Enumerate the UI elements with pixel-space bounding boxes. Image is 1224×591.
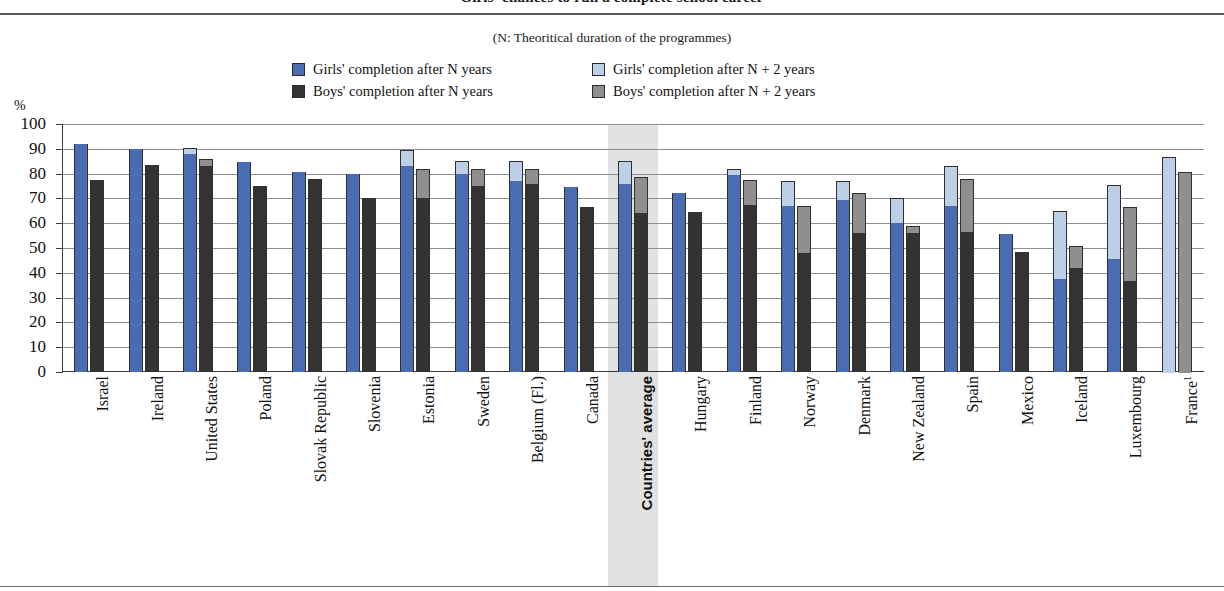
- segment-girls_n2: [401, 151, 413, 167]
- segment-boys_n: [1070, 268, 1082, 372]
- segment-boys_n: [91, 180, 103, 372]
- x-axis-label-canada: Canada: [585, 376, 601, 424]
- bar-group: [62, 124, 116, 372]
- chart-title-strip: Girls' chances to run a complete school …: [0, 0, 1224, 13]
- segment-boys_n2: [526, 170, 538, 185]
- x-axis-label-luxembourg: Luxembourg: [1128, 376, 1144, 458]
- y-tick-label-70: 70: [29, 188, 46, 208]
- bar-group: [280, 124, 334, 372]
- bar-boys-belgium-fl: [525, 169, 539, 372]
- bar-group: [823, 124, 877, 372]
- legend-swatch-girls_n: [292, 63, 305, 76]
- x-axis-label-slovak-republic: Slovak Republic: [313, 376, 329, 482]
- segment-boys_n: [635, 213, 647, 372]
- bar-boys-united-states: [199, 159, 213, 372]
- bar-boys-france: [1178, 172, 1192, 372]
- x-axis-label-israel: Israel: [95, 376, 111, 412]
- legend-item-girls_n: Girls' completion after N years: [292, 61, 592, 78]
- bar-group: [171, 124, 225, 372]
- y-tick-label-10: 10: [29, 337, 46, 357]
- legend-item-boys_n2: Boys' completion after N + 2 years: [592, 83, 912, 100]
- bar-group: [986, 124, 1040, 372]
- y-tick-label-0: 0: [38, 362, 47, 382]
- bar-boys-canada: [580, 207, 594, 372]
- bar-girls-france: [1162, 157, 1176, 372]
- segment-boys_n: [961, 232, 973, 372]
- segment-boys_n: [526, 184, 538, 372]
- footnote-marker: 1: [1182, 376, 1193, 381]
- bar-group: [443, 124, 497, 372]
- bar-girls-mexico: [999, 234, 1013, 372]
- bar-group: [606, 124, 660, 372]
- segment-boys_n2: [472, 170, 484, 187]
- legend-label-girls_n2: Girls' completion after N + 2 years: [613, 61, 815, 78]
- segment-boys_n: [254, 186, 266, 372]
- bar-group: [116, 124, 170, 372]
- segment-boys_n2: [1070, 247, 1082, 269]
- bar-girls-belgium-fl: [509, 161, 523, 372]
- bar-girls-slovenia: [346, 174, 360, 372]
- segment-boys_n: [309, 179, 321, 372]
- segment-girls_n: [1000, 234, 1012, 372]
- x-axis-label-norway: Norway: [802, 376, 818, 428]
- bar-group: [551, 124, 605, 372]
- bar-boys-finland: [743, 180, 757, 372]
- legend-label-boys_n: Boys' completion after N years: [313, 83, 493, 100]
- segment-girls_n: [456, 174, 468, 372]
- bar-group: [878, 124, 932, 372]
- bar-boys-norway: [797, 206, 811, 372]
- segment-boys_n: [146, 165, 158, 372]
- bar-group: [1041, 124, 1095, 372]
- segment-girls_n: [673, 193, 685, 372]
- y-axis-labels: 0102030405060708090100: [0, 124, 56, 372]
- bar-girls-hungary: [672, 193, 686, 372]
- page-title: Girls' chances to run a complete school …: [0, 0, 1224, 6]
- bar-group: [388, 124, 442, 372]
- plot-area: [62, 124, 1204, 372]
- y-tick-label-30: 30: [29, 288, 46, 308]
- y-tick-0: [56, 372, 63, 373]
- bar-girls-united-states: [183, 148, 197, 372]
- segment-girls_n2: [619, 162, 631, 184]
- segment-girls_n: [728, 175, 740, 372]
- x-axis-label-belgium-fl: Belgium (Fl.): [530, 376, 546, 463]
- x-axis-label-finland: Finland: [748, 376, 764, 425]
- bar-group: [769, 124, 823, 372]
- y-axis-unit: %: [14, 98, 26, 114]
- segment-boys_n: [200, 166, 212, 372]
- bar-boys-countries-average: [634, 177, 648, 372]
- bar-girls-denmark: [836, 181, 850, 372]
- bar-boys-iceland: [1069, 246, 1083, 372]
- y-tick-label-100: 100: [21, 114, 47, 134]
- bar-group: [1150, 124, 1204, 372]
- bar-boys-denmark: [852, 193, 866, 372]
- x-axis-labels: IsraelIrelandUnited StatesPolandSlovak R…: [62, 376, 1204, 576]
- y-tick-label-50: 50: [29, 238, 46, 258]
- chart-subtitle: (N: Theoritical duration of the programm…: [0, 30, 1224, 46]
- segment-girls_n: [891, 223, 903, 372]
- segment-boys_n: [1016, 252, 1028, 372]
- segment-boys_n: [581, 207, 593, 372]
- x-axis-label-denmark: Denmark: [857, 376, 873, 436]
- segment-boys_n: [1124, 281, 1136, 372]
- bar-girls-iceland: [1053, 211, 1067, 372]
- segment-girls_n: [238, 162, 250, 372]
- x-axis-label-spain: Spain: [965, 376, 981, 412]
- bar-girls-sweden: [455, 161, 469, 372]
- x-axis-label-ireland: Ireland: [150, 376, 166, 421]
- segment-boys_n: [417, 198, 429, 372]
- bar-girls-slovak-republic: [292, 172, 306, 372]
- legend-swatch-girls_n2: [592, 63, 605, 76]
- legend-item-girls_n2: Girls' completion after N + 2 years: [592, 61, 912, 78]
- segment-boys_n2: [417, 170, 429, 200]
- x-axis-label-estonia: Estonia: [421, 376, 437, 424]
- bar-boys-slovak-republic: [308, 179, 322, 372]
- segment-boys_n: [689, 212, 701, 372]
- x-axis-label-hungary: Hungary: [693, 376, 709, 432]
- segment-girls_n: [1108, 259, 1120, 372]
- x-axis-label-iceland: Iceland: [1074, 376, 1090, 423]
- segment-girls_n2: [782, 182, 794, 207]
- bar-boys-ireland: [145, 165, 159, 372]
- bar-groups: [62, 124, 1204, 372]
- segment-girls_n2: [1054, 212, 1066, 280]
